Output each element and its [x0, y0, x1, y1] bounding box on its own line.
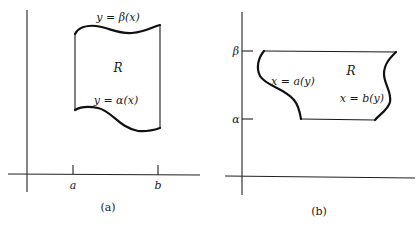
panel-b-right-curve-b [375, 52, 396, 120]
panel-a-tick-label-a: a [70, 179, 77, 192]
panel-a-lower-curve-alpha [75, 107, 160, 131]
panel-b-top-edge [264, 51, 396, 52]
panel-b-left-curve-label: x = a(y) [271, 75, 315, 88]
panel-a-region-label: R [112, 61, 122, 75]
panel-a-caption: (a) [100, 201, 115, 214]
panel-a: y = β(x) R y = α(x) a b (a) [8, 10, 200, 214]
panel-b-tick-label-beta: β [232, 45, 239, 58]
panel-a-tick-label-b: b [154, 179, 161, 192]
panel-b-region-label: R [345, 64, 355, 78]
panel-b-caption: (b) [311, 205, 327, 218]
panel-a-upper-curve-label: y = β(x) [95, 11, 140, 24]
panel-a-lower-curve-label: y = α(x) [93, 94, 139, 107]
panel-a-upper-curve-beta [75, 25, 160, 34]
panel-b: β α R x = a(y) x = b(y) (b) [225, 12, 415, 218]
panel-b-bottom-edge [301, 119, 375, 120]
integration-regions-figure: y = β(x) R y = α(x) a b (a) β α R x = a(… [0, 0, 419, 228]
panel-b-tick-label-alpha: α [232, 113, 240, 126]
panel-b-right-curve-label: x = b(y) [340, 92, 384, 105]
panel-a-x-axis [8, 174, 200, 175]
panel-b-x-axis [225, 176, 415, 178]
